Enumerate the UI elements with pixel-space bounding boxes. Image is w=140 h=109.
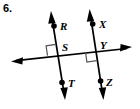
- transversal-left-arrowhead: [11, 57, 23, 64]
- point-dot-z: [98, 78, 104, 84]
- transversal-right-arrowhead: [120, 44, 132, 51]
- point-dot-r: [51, 23, 57, 29]
- right-angle-square-y: [86, 52, 97, 62]
- left-line-top-arrowhead: [48, 11, 55, 24]
- geometry-figure: 6.: [0, 0, 140, 109]
- point-dot-t: [59, 80, 65, 86]
- right-line-bottom-arrowhead: [99, 87, 106, 100]
- point-label-y: Y: [100, 39, 108, 51]
- right-angle-square-s: [46, 44, 56, 55]
- right-line-top-arrowhead: [87, 9, 94, 22]
- point-label-s: S: [62, 41, 68, 53]
- point-label-z: Z: [105, 76, 113, 88]
- diagram-canvas: R S T X Y Z: [0, 0, 140, 109]
- point-label-x: X: [98, 18, 107, 30]
- point-dot-x: [90, 21, 96, 27]
- right-angle-mark-s: [46, 44, 56, 55]
- right-angle-mark-y: [86, 52, 97, 62]
- point-label-r: R: [59, 20, 67, 32]
- point-label-t: T: [68, 77, 76, 89]
- transversal-segment: [16, 49, 127, 61]
- horizontal-transversal-line: [11, 44, 132, 65]
- left-line-bottom-arrowhead: [60, 87, 67, 100]
